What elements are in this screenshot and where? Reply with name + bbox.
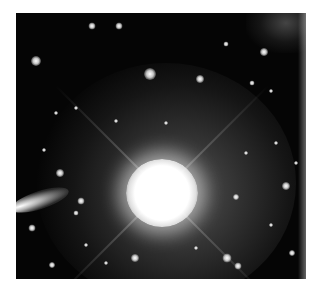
star xyxy=(250,81,255,86)
star xyxy=(194,246,198,250)
star xyxy=(164,121,168,125)
star xyxy=(116,23,123,30)
star xyxy=(233,194,239,200)
star xyxy=(223,254,232,263)
star xyxy=(269,223,273,227)
star xyxy=(260,48,268,56)
star xyxy=(235,263,242,270)
star xyxy=(114,119,118,123)
star xyxy=(282,182,290,190)
star xyxy=(49,262,55,268)
star xyxy=(74,106,78,110)
star xyxy=(224,42,229,47)
star xyxy=(196,75,204,83)
star xyxy=(131,254,139,262)
cutoff-caption-text xyxy=(0,0,313,4)
star xyxy=(144,68,156,80)
nebula-glow xyxy=(246,13,306,53)
star xyxy=(56,169,64,177)
star xyxy=(89,23,96,30)
star xyxy=(78,198,85,205)
star xyxy=(74,211,79,216)
star-field-photo xyxy=(16,13,306,279)
star xyxy=(289,250,295,256)
star xyxy=(104,261,108,265)
bright-star-core xyxy=(126,159,198,227)
edge-fade xyxy=(298,13,306,279)
star xyxy=(269,89,273,93)
star xyxy=(244,151,248,155)
star xyxy=(42,148,46,152)
star xyxy=(54,111,58,115)
star xyxy=(29,225,36,232)
star xyxy=(274,141,278,145)
star xyxy=(31,56,41,66)
star xyxy=(84,243,88,247)
